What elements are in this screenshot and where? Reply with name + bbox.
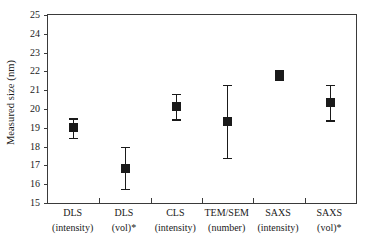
- error-bar-cap-upper: [172, 94, 181, 95]
- data-marker: [121, 164, 130, 173]
- y-axis-tick-mark: [44, 15, 48, 16]
- y-axis-tick-label: 17: [30, 158, 40, 171]
- x-axis-category-line2: (intensity): [47, 221, 98, 236]
- y-axis-tick-mark: [44, 147, 48, 148]
- x-axis-category-line1: CLS: [150, 206, 201, 221]
- y-axis-tick-mark: [44, 203, 48, 204]
- data-marker: [275, 71, 284, 80]
- plot-frame: 1516171819202122232425: [47, 14, 357, 204]
- x-axis-category-line1: SAXS: [252, 206, 303, 221]
- y-axis-tick-label: 20: [30, 102, 40, 115]
- x-axis-category-label: CLS(intensity): [150, 206, 201, 235]
- y-axis-tick-mark: [44, 128, 48, 129]
- x-axis-category-line2: (vol)*: [304, 221, 355, 236]
- x-axis-category-line1: SAXS: [304, 206, 355, 221]
- error-bar-cap-lower: [172, 119, 181, 120]
- x-axis-category-label: DLS(intensity): [47, 206, 98, 235]
- data-marker: [69, 123, 78, 132]
- error-bar-cap-lower: [223, 158, 232, 159]
- error-bar-cap-lower: [69, 138, 78, 139]
- error-bar-cap-upper: [326, 85, 335, 86]
- x-axis-category-line1: DLS: [98, 206, 149, 221]
- error-bar-cap-lower: [326, 120, 335, 121]
- y-axis-tick-label: 16: [30, 177, 40, 190]
- x-axis-tick-mark: [202, 198, 203, 203]
- error-bar-cap-upper: [69, 118, 78, 119]
- x-axis-tick-mark: [99, 198, 100, 203]
- x-axis-category-line1: DLS: [47, 206, 98, 221]
- error-bar-cap-lower: [275, 80, 284, 81]
- y-axis-tick-mark: [44, 34, 48, 35]
- y-axis-tick-mark: [44, 165, 48, 166]
- x-axis-category-label: SAXS(intensity): [252, 206, 303, 235]
- y-axis-tick-label: 18: [30, 140, 40, 153]
- x-axis-tick-mark: [305, 198, 306, 203]
- error-bar-cap-lower: [121, 189, 130, 190]
- y-axis-tick-label: 23: [30, 46, 40, 59]
- chart-figure: Measured size (nm) 151617181920212223242…: [0, 0, 378, 249]
- y-axis-tick-label: 25: [30, 8, 40, 21]
- y-axis-tick-label: 24: [30, 27, 40, 40]
- x-axis-category-label: SAXS(vol)*: [304, 206, 355, 235]
- x-axis-category-line2: (vol)*: [98, 221, 149, 236]
- data-marker: [172, 102, 181, 111]
- y-axis-title-text: Measured size (nm): [6, 59, 17, 144]
- x-axis-tick-mark: [253, 198, 254, 203]
- x-axis-tick-mark: [151, 198, 152, 203]
- plot-area: 1516171819202122232425: [48, 15, 356, 203]
- y-axis-tick-label: 19: [30, 121, 40, 134]
- error-bar-cap-upper: [223, 85, 232, 86]
- x-axis-category-line1: TEM/SEM: [201, 206, 252, 221]
- x-axis-category-label: TEM/SEM(number): [201, 206, 252, 235]
- x-axis-category-line2: (intensity): [150, 221, 201, 236]
- x-axis-category-line2: (number): [201, 221, 252, 236]
- y-axis-tick-mark: [44, 71, 48, 72]
- data-marker: [223, 117, 232, 126]
- y-axis-title: Measured size (nm): [0, 0, 22, 204]
- x-axis-category-line2: (intensity): [252, 221, 303, 236]
- y-axis-tick-label: 15: [30, 196, 40, 209]
- x-axis-category-label: DLS(vol)*: [98, 206, 149, 235]
- y-axis-tick-label: 21: [30, 83, 40, 96]
- y-axis-tick-mark: [44, 53, 48, 54]
- y-axis-tick-mark: [44, 109, 48, 110]
- y-axis-tick-label: 22: [30, 64, 40, 77]
- y-axis-tick-mark: [44, 184, 48, 185]
- x-axis-labels: DLS(intensity)DLS(vol)*CLS(intensity)TEM…: [47, 206, 357, 248]
- y-axis-tick-mark: [44, 90, 48, 91]
- data-marker: [326, 98, 335, 107]
- error-bar-cap-upper: [121, 147, 130, 148]
